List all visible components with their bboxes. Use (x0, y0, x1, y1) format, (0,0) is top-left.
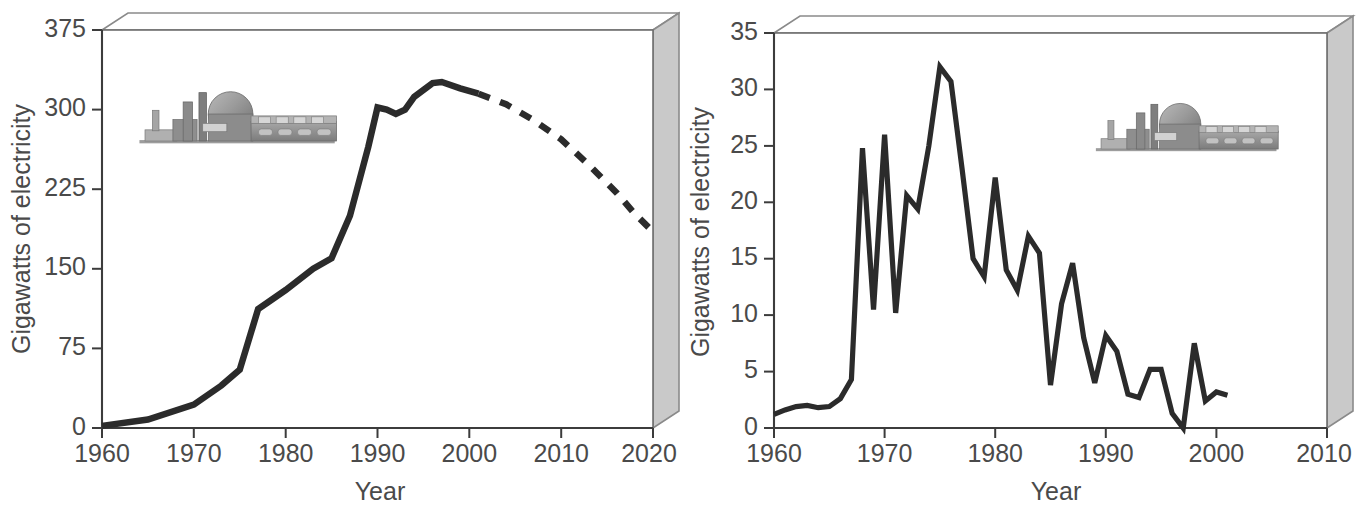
right-y-axis-title: Gigawatts of electricity (686, 106, 714, 357)
left-x-ticks (102, 428, 653, 438)
left-y-ticks (92, 30, 102, 428)
plot-box-side-face (653, 13, 679, 428)
x-tick-label: 1990 (1078, 439, 1134, 467)
y-tick-label: 30 (730, 73, 758, 101)
plot-box-front-face (102, 30, 653, 428)
two-panel-figure: 0 75 150 225 300 375 1960 1970 1980 (0, 0, 1361, 520)
left-y-axis-title: Gigawatts of electricity (7, 103, 35, 354)
x-tick-label: 2000 (441, 439, 497, 467)
y-tick-label: 0 (72, 412, 86, 440)
x-tick-label: 2010 (1296, 439, 1352, 467)
y-tick-label: 150 (44, 252, 86, 280)
right-x-ticks (774, 428, 1327, 438)
right-y-ticks (764, 33, 774, 428)
right-x-axis-title: Year (1031, 477, 1082, 505)
y-tick-label: 300 (44, 93, 86, 121)
y-tick-label: 75 (58, 332, 86, 360)
x-tick-label: 2020 (621, 439, 677, 467)
x-tick-label: 1970 (166, 439, 222, 467)
right-chart-svg: 0 5 10 15 20 25 30 35 1960 1970 1980 (681, 0, 1361, 520)
x-tick-label: 2000 (1189, 439, 1245, 467)
x-tick-label: 2010 (533, 439, 589, 467)
x-tick-label: 1970 (857, 439, 913, 467)
y-tick-label: 10 (730, 299, 758, 327)
left-chart-svg: 0 75 150 225 300 375 1960 1970 1980 (0, 0, 680, 520)
chart-panel-left: 0 75 150 225 300 375 1960 1970 1980 (0, 0, 680, 520)
y-tick-label: 35 (730, 17, 758, 45)
plot-box-top-face (102, 13, 679, 30)
x-tick-label: 1990 (350, 439, 406, 467)
y-tick-label: 0 (744, 412, 758, 440)
right-y-tick-labels: 0 5 10 15 20 25 30 35 (730, 17, 758, 440)
y-tick-label: 15 (730, 242, 758, 270)
x-tick-label: 1960 (746, 439, 802, 467)
left-x-tick-labels: 1960 1970 1980 1990 2000 2010 2020 (74, 439, 677, 467)
plot-box-side-face (1327, 16, 1353, 428)
x-tick-label: 1960 (74, 439, 130, 467)
left-y-tick-labels: 0 75 150 225 300 375 (44, 14, 86, 440)
right-x-tick-labels: 1960 1970 1980 1990 2000 2010 (746, 439, 1352, 467)
plot-box-top-face (774, 16, 1353, 33)
x-tick-label: 1980 (258, 439, 314, 467)
y-tick-label: 225 (44, 173, 86, 201)
x-tick-label: 1980 (967, 439, 1023, 467)
y-tick-label: 375 (44, 14, 86, 42)
y-tick-label: 5 (744, 355, 758, 383)
chart-panel-right: 0 5 10 15 20 25 30 35 1960 1970 1980 (681, 0, 1361, 520)
left-x-axis-title: Year (355, 477, 406, 505)
y-tick-label: 25 (730, 130, 758, 158)
y-tick-label: 20 (730, 186, 758, 214)
